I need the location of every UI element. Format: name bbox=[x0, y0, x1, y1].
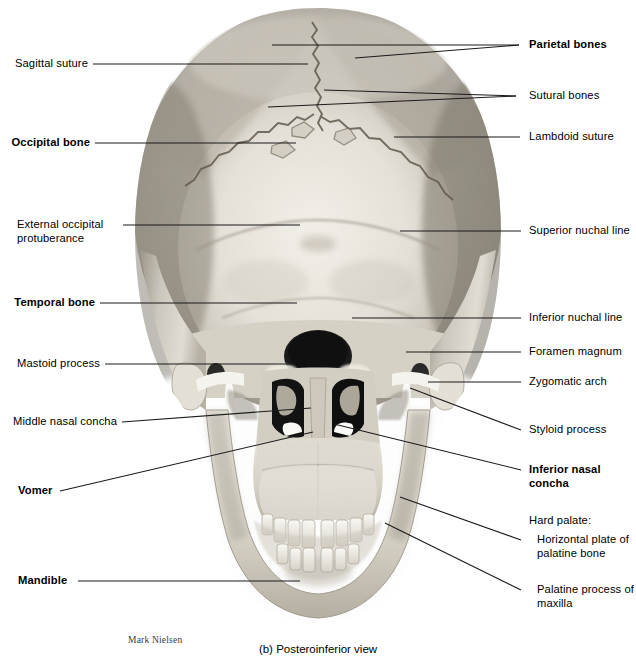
label-palatine-process-maxilla: Palatine process of maxilla bbox=[537, 583, 634, 610]
label-inferior-nasal-concha: Inferior nasal concha bbox=[529, 463, 601, 490]
label-styloid-process: Styloid process bbox=[529, 423, 606, 437]
label-temporal-bone: Temporal bone bbox=[14, 296, 95, 310]
label-external-occipital-protuberance: External occipital protuberance bbox=[17, 218, 103, 245]
label-sagittal-suture: Sagittal suture bbox=[15, 57, 88, 71]
label-middle-nasal-concha: Middle nasal concha bbox=[13, 415, 117, 429]
figure-caption: (b) Posteroinferior view bbox=[0, 643, 636, 655]
label-vomer: Vomer bbox=[18, 484, 53, 498]
label-sutural-bones: Sutural bones bbox=[529, 89, 599, 103]
label-inferior-nuchal-line: Inferior nuchal line bbox=[529, 311, 622, 325]
label-foramen-magnum: Foramen magnum bbox=[529, 345, 622, 359]
label-mandible: Mandible bbox=[18, 574, 67, 588]
label-hard-palate-heading: Hard palate: bbox=[529, 514, 591, 528]
bone-texture bbox=[130, 0, 510, 630]
label-superior-nuchal-line: Superior nuchal line bbox=[529, 224, 630, 238]
label-horizontal-plate-palatine-bone: Horizontal plate of palatine bone bbox=[537, 533, 629, 560]
label-occipital-bone: Occipital bone bbox=[12, 136, 90, 150]
label-zygomatic-arch: Zygomatic arch bbox=[529, 375, 607, 389]
label-lambdoid-suture: Lambdoid suture bbox=[529, 130, 614, 144]
label-parietal-bones: Parietal bones bbox=[529, 38, 607, 52]
label-mastoid-process: Mastoid process bbox=[17, 357, 100, 371]
figure-page: Sagittal suture Occipital bone External … bbox=[0, 0, 636, 672]
